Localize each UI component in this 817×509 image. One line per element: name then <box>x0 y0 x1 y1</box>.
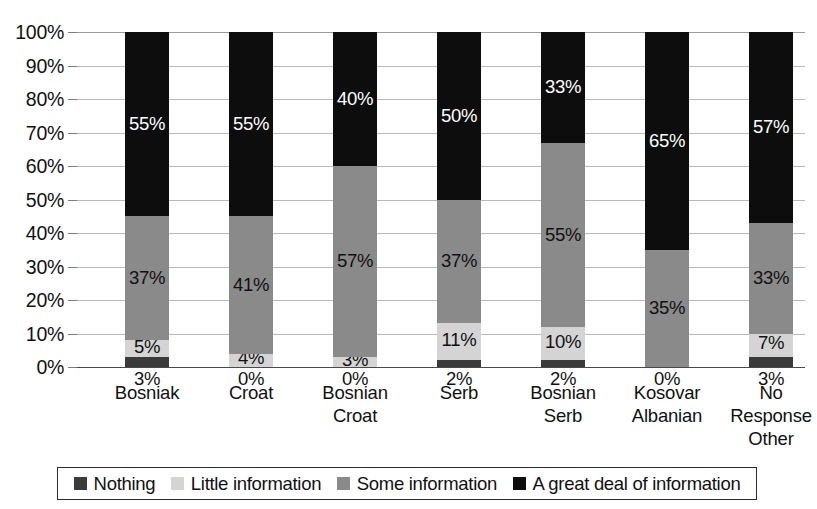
bar-column: 3%7%33%57% <box>749 32 793 367</box>
x-axis-label-line: Bosnian <box>296 381 414 404</box>
x-axis-label: KosovarAlbanian <box>608 381 726 427</box>
y-axis-tick <box>68 200 77 201</box>
bar-segment <box>749 223 793 334</box>
legend-swatch-icon <box>513 477 526 490</box>
y-axis-tick <box>68 334 77 335</box>
x-axis-label-line: Croat <box>296 404 414 427</box>
x-axis-label: Croat <box>192 381 310 404</box>
y-axis-tick <box>68 267 77 268</box>
x-axis-label: BosnianSerb <box>504 381 622 427</box>
bar-segment <box>541 143 585 327</box>
y-axis-tick <box>68 99 77 100</box>
legend-swatch-icon <box>171 477 184 490</box>
bar-column: 0%4%41%55% <box>229 32 273 367</box>
x-axis-label: Serb <box>400 381 518 404</box>
x-axis-label-line: Bosnian <box>504 381 622 404</box>
bar-segment <box>125 340 169 357</box>
y-axis-tick <box>68 166 77 167</box>
y-axis-tick <box>68 367 77 368</box>
x-axis-label: BosnianCroat <box>296 381 414 427</box>
bar-column: 0%35%65% <box>645 32 689 367</box>
plot-area: 0%10%20%30%40%50%60%70%80%90%100% 3%5%37… <box>77 32 805 367</box>
y-axis-tick-label: 70% <box>26 121 64 144</box>
bar-segment <box>749 32 793 223</box>
x-axis-label-line: Other <box>712 427 817 450</box>
gridline <box>77 367 805 368</box>
bar-segment <box>437 32 481 200</box>
stacked-bar-chart: 0%10%20%30%40%50%60%70%80%90%100% 3%5%37… <box>0 0 817 509</box>
bar-column: 2%11%37%50% <box>437 32 481 367</box>
legend-item[interactable]: Some information <box>337 473 497 495</box>
bar-segment <box>437 360 481 367</box>
y-axis-tick-label: 0% <box>36 356 64 379</box>
bar-segment <box>749 334 793 357</box>
y-axis-tick-label: 80% <box>26 88 64 111</box>
bar-segment <box>437 200 481 324</box>
y-axis-tick-label: 10% <box>26 322 64 345</box>
y-axis-tick-label: 20% <box>26 289 64 312</box>
bar-segment <box>229 216 273 353</box>
bar-segment <box>541 327 585 361</box>
bar-segment <box>229 354 273 367</box>
x-axis-label-line: Bosniak <box>88 381 206 404</box>
legend-swatch-icon <box>337 477 350 490</box>
legend-label: Some information <box>357 473 497 495</box>
bar-segment <box>541 32 585 143</box>
x-axis-label-line: Serb <box>504 404 622 427</box>
legend-label: A great deal of information <box>533 473 741 495</box>
bar-column: 3%5%37%55% <box>125 32 169 367</box>
bar-segment <box>125 32 169 216</box>
x-axis-label-line: Serb <box>400 381 518 404</box>
y-axis-tick-label: 60% <box>26 155 64 178</box>
y-axis-tick <box>68 133 77 134</box>
x-axis-label-line: No <box>712 381 817 404</box>
bar-column: 2%10%55%33% <box>541 32 585 367</box>
x-axis-label: NoResponseOther <box>712 381 817 450</box>
y-axis-tick <box>68 300 77 301</box>
legend-swatch-icon <box>74 477 87 490</box>
y-axis-tick-label: 90% <box>26 54 64 77</box>
legend-item[interactable]: Nothing <box>74 473 156 495</box>
x-axis-label-line: Kosovar <box>608 381 726 404</box>
x-axis-label-line: Response <box>712 404 817 427</box>
legend-item[interactable]: Little information <box>171 473 321 495</box>
bar-segment <box>333 357 377 367</box>
bar-column: 0%3%57%40% <box>333 32 377 367</box>
bar-segment <box>541 360 585 367</box>
legend-label: Little information <box>191 473 321 495</box>
y-axis-tick-label: 100% <box>15 21 64 44</box>
y-axis-tick-label: 40% <box>26 222 64 245</box>
legend-label: Nothing <box>94 473 156 495</box>
x-axis-label-line: Albanian <box>608 404 726 427</box>
bars-layer: 3%5%37%55%0%4%41%55%0%3%57%40%2%11%37%50… <box>77 32 805 367</box>
bar-segment <box>437 323 481 360</box>
bar-segment <box>645 250 689 367</box>
legend-item[interactable]: A great deal of information <box>513 473 741 495</box>
y-axis-tick-label: 50% <box>26 188 64 211</box>
y-axis-tick <box>68 66 77 67</box>
bar-segment <box>229 32 273 216</box>
bar-segment <box>125 216 169 340</box>
y-axis-tick <box>68 32 77 33</box>
bar-segment <box>749 357 793 367</box>
x-axis-category-labels: BosniakCroatBosnianCroatSerbBosnianSerbK… <box>77 381 805 459</box>
x-axis-label: Bosniak <box>88 381 206 404</box>
y-axis-tick-label: 30% <box>26 255 64 278</box>
bar-segment <box>333 166 377 357</box>
bar-segment <box>125 357 169 367</box>
chart-legend: NothingLittle informationSome informatio… <box>57 467 757 500</box>
x-axis-label-line: Croat <box>192 381 310 404</box>
bar-segment <box>333 32 377 166</box>
y-axis-tick <box>68 233 77 234</box>
bar-segment <box>645 32 689 250</box>
